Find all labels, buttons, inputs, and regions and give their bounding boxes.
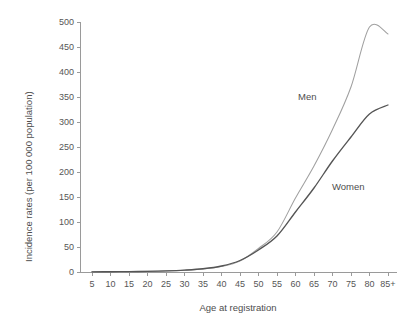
x-tick-label: 85+ bbox=[380, 279, 395, 289]
y-tick-label: 50 bbox=[64, 242, 74, 252]
x-tick-label: 15 bbox=[124, 279, 134, 289]
y-tick-label: 100 bbox=[59, 217, 74, 227]
y-tick-label: 350 bbox=[59, 92, 74, 102]
x-axis-ticks: 510152025303540455055606570758085+ bbox=[89, 272, 395, 289]
y-tick-label: 200 bbox=[59, 167, 74, 177]
x-tick-label: 40 bbox=[216, 279, 226, 289]
chart-canvas: Incidence rates (per 100 000 population)… bbox=[0, 0, 413, 331]
x-axis-label: Age at registration bbox=[199, 302, 276, 313]
x-tick-label: 55 bbox=[272, 279, 282, 289]
y-tick-label: 300 bbox=[59, 117, 74, 127]
y-tick-label: 500 bbox=[59, 17, 74, 27]
incidence-rate-line-chart: Incidence rates (per 100 000 population)… bbox=[0, 0, 413, 331]
x-tick-label: 25 bbox=[161, 279, 171, 289]
x-tick-label: 10 bbox=[105, 279, 115, 289]
y-axis-label: Incidence rates (per 100 000 population) bbox=[23, 91, 34, 262]
y-tick-label: 150 bbox=[59, 192, 74, 202]
y-tick-label: 0 bbox=[69, 267, 74, 277]
x-tick-label: 50 bbox=[253, 279, 263, 289]
y-tick-label: 250 bbox=[59, 142, 74, 152]
x-tick-label: 60 bbox=[290, 279, 300, 289]
x-tick-label: 20 bbox=[142, 279, 152, 289]
x-tick-label: 35 bbox=[198, 279, 208, 289]
y-tick-label: 400 bbox=[59, 67, 74, 77]
y-axis-ticks: 050100150200250300350400450500 bbox=[59, 17, 81, 277]
y-tick-label: 450 bbox=[59, 42, 74, 52]
x-tick-label: 75 bbox=[346, 279, 356, 289]
series-line-men bbox=[92, 24, 388, 272]
x-tick-label: 5 bbox=[89, 279, 94, 289]
x-tick-label: 70 bbox=[327, 279, 337, 289]
x-tick-label: 45 bbox=[235, 279, 245, 289]
series-annotation-women: Women bbox=[332, 181, 365, 192]
x-tick-label: 65 bbox=[309, 279, 319, 289]
x-tick-label: 80 bbox=[364, 279, 374, 289]
series-annotation-men: Men bbox=[298, 91, 316, 102]
x-tick-label: 30 bbox=[179, 279, 189, 289]
